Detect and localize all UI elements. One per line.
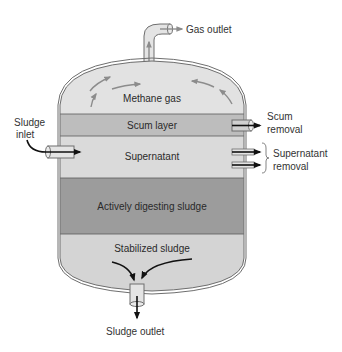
supernatant-removal-label-1: Supernatant [273,148,328,159]
supernatant-label: Supernatant [125,151,180,162]
gas-outlet-label: Gas outlet [186,24,232,35]
scum-removal-label-2: removal [267,124,303,135]
digester-diagram: Methane gas Scum layer Supernatant Activ… [0,0,342,352]
sludge-inlet-label-2: inlet [16,129,35,140]
scum-removal-pipe [232,120,260,131]
supernatant-removal-label-2: removal [273,161,309,172]
scum-layer-label: Scum layer [127,120,178,131]
scum-removal-label-1: Scum [267,111,293,122]
methane-gas-layer [55,55,250,115]
active-sludge-label: Actively digesting sludge [97,201,207,212]
methane-gas-label: Methane gas [123,93,181,104]
stabilized-sludge-label: Stabilized sludge [114,243,190,254]
sludge-outlet-label: Sludge outlet [106,326,165,337]
sludge-inlet-label-1: Sludge [14,117,46,128]
brace-icon [262,143,269,173]
sludge-outlet-pipe [130,284,144,318]
